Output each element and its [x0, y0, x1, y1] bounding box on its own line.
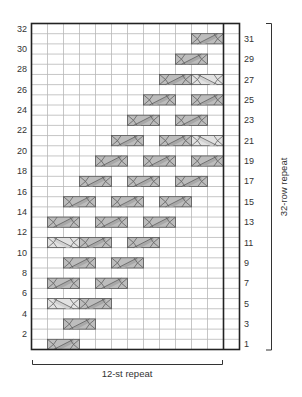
cable-cross-left-icon	[48, 299, 80, 309]
row-number-label: 26	[17, 85, 27, 95]
cable-cross-right-icon	[64, 197, 96, 207]
row-number-label: 20	[17, 146, 27, 156]
row-number-label: 7	[244, 278, 249, 288]
row-number-label: 22	[17, 125, 27, 135]
cable-cross-right-icon	[144, 156, 176, 166]
row-number-label: 12	[17, 227, 27, 237]
cable-symbols	[48, 34, 224, 350]
row-number-label: 4	[22, 309, 27, 319]
cable-cross-right-icon	[64, 319, 96, 329]
row-number-label: 16	[17, 187, 27, 197]
row-number-label: 17	[244, 176, 254, 186]
row-labels-right: 135791113151719212325272931	[244, 34, 254, 350]
row-number-label: 25	[244, 95, 254, 105]
cable-cross-right-icon	[176, 176, 208, 186]
cable-cross-right-icon	[160, 74, 192, 84]
row-number-label: 29	[244, 54, 254, 64]
row-number-label: 1	[244, 339, 249, 349]
cable-cross-right-icon	[80, 237, 112, 247]
row-number-label: 8	[22, 268, 27, 278]
cable-cross-right-icon	[48, 217, 80, 227]
row-number-label: 21	[244, 136, 254, 146]
row-number-label: 28	[17, 64, 27, 74]
cable-cross-right-icon	[192, 95, 224, 105]
cable-cross-right-icon	[96, 156, 128, 166]
cable-cross-right-icon	[48, 278, 80, 288]
cable-cross-right-icon	[112, 197, 144, 207]
row-number-label: 32	[17, 24, 27, 34]
cable-cross-right-icon	[96, 217, 128, 227]
row-number-label: 10	[17, 248, 27, 258]
row-number-label: 31	[244, 34, 254, 44]
cable-cross-right-icon	[144, 95, 176, 105]
row-repeat-label: 32-row repeat	[278, 157, 289, 216]
stitch-repeat-label: 12-st repeat	[102, 368, 153, 379]
stitch-repeat-bracket: 12-st repeat	[33, 360, 223, 379]
row-number-label: 5	[244, 299, 249, 309]
row-number-label: 14	[17, 207, 27, 217]
cable-cross-right-icon	[80, 299, 112, 309]
cable-cross-right-icon	[64, 258, 96, 268]
cable-cross-right-icon	[192, 156, 224, 166]
cable-cross-right-icon	[128, 237, 160, 247]
row-number-label: 13	[244, 217, 254, 227]
row-number-label: 30	[17, 44, 27, 54]
cable-cross-right-icon	[128, 115, 160, 125]
cable-cross-right-icon	[160, 136, 192, 146]
row-labels-left: 2468101214161820222426283032	[17, 24, 27, 340]
row-number-label: 6	[22, 288, 27, 298]
cable-cross-left-icon	[48, 237, 80, 247]
cable-cross-right-icon	[112, 258, 144, 268]
cable-cross-right-icon	[176, 54, 208, 64]
cable-cross-right-icon	[112, 136, 144, 146]
row-number-label: 18	[17, 166, 27, 176]
cable-cross-right-icon	[160, 197, 192, 207]
cable-cross-left-icon	[192, 136, 224, 146]
cable-cross-right-icon	[192, 34, 224, 44]
cable-cross-right-icon	[144, 217, 176, 227]
row-number-label: 19	[244, 156, 254, 166]
cable-cross-right-icon	[80, 176, 112, 186]
row-number-label: 3	[244, 319, 249, 329]
knitting-cable-chart: 2468101214161820222426283032 13579111315…	[0, 0, 302, 397]
row-number-label: 15	[244, 197, 254, 207]
row-number-label: 11	[244, 238, 253, 248]
row-number-label: 27	[244, 75, 254, 85]
row-number-label: 2	[22, 329, 27, 339]
cable-cross-right-icon	[176, 115, 208, 125]
cable-cross-right-icon	[48, 339, 80, 349]
row-number-label: 23	[244, 115, 254, 125]
row-repeat-bracket: 32-row repeat	[266, 24, 289, 351]
row-number-label: 24	[17, 105, 27, 115]
cable-cross-left-icon	[192, 74, 224, 84]
cable-cross-right-icon	[96, 278, 128, 288]
row-number-label: 9	[244, 258, 249, 268]
cable-cross-right-icon	[128, 176, 160, 186]
